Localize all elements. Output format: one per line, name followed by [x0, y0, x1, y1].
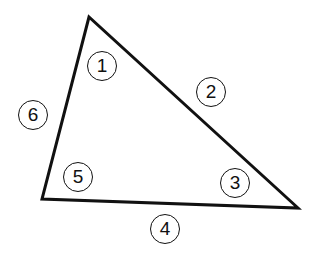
- label-angle-5: 5: [63, 162, 93, 192]
- label-text: 4: [160, 218, 171, 240]
- label-text: 3: [230, 172, 241, 194]
- label-text: 6: [28, 104, 39, 126]
- triangle-shape: [0, 0, 311, 253]
- label-angle-1: 1: [87, 51, 117, 81]
- label-side-2: 2: [196, 77, 226, 107]
- label-text: 5: [73, 166, 84, 188]
- label-angle-3: 3: [220, 168, 250, 198]
- label-text: 1: [97, 55, 108, 77]
- label-text: 2: [206, 81, 217, 103]
- label-side-4: 4: [150, 214, 180, 244]
- label-side-6: 6: [18, 100, 48, 130]
